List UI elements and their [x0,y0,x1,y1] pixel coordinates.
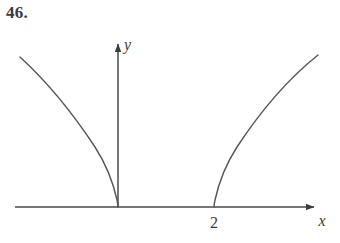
x-axis-label: x [317,212,325,229]
figure-page: 46. 2 y x [0,0,340,243]
curve-left-branch [20,57,118,207]
graph-figure: 2 y x [0,0,340,243]
x-tick-label-2: 2 [210,214,218,231]
curve-right-branch [214,55,318,207]
y-axis-label: y [122,36,132,54]
